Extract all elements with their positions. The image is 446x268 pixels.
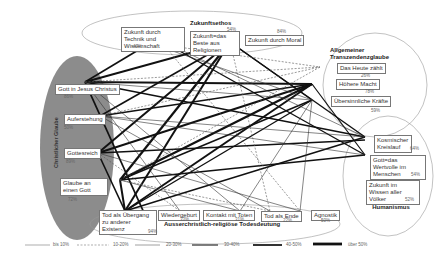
node-einengott: Glaube an einen Gott [60, 178, 108, 196]
pct-einengott: 72% [68, 197, 77, 202]
node-kreislauf: Kosmischer Kreislauf [374, 135, 412, 153]
node-religionen: Zukunft=das Beste aus Religionen [190, 31, 240, 56]
group-title-christian: Christlicher Glaube [53, 117, 60, 168]
pct-religionen: 54% [227, 27, 236, 32]
legend-label-5: 40-50% [286, 242, 302, 247]
pct-kreislauf: 64% [410, 146, 419, 151]
pct-macht: 78% [365, 89, 374, 94]
pct-gottesreich: 89% [66, 159, 75, 164]
pct-jesus: 86% [64, 94, 73, 99]
group-title-todesdeutung: Ausserchristlich-religiöse Todesdeutung [164, 221, 280, 228]
group-title-zukunftsethos: Zukunftsethos [190, 20, 231, 27]
legend-label-6: über 50% [348, 242, 367, 247]
node-gottesreich: Gottesreich [64, 148, 101, 159]
pct-auferstehung: 50% [64, 125, 73, 130]
pct-heute: 26% [361, 73, 370, 78]
legend-label-1: bis 10% [53, 242, 69, 247]
group-title-transzendenz: Allgemeiner Transzendenzglaube [330, 47, 400, 61]
node-kontakt: Kontakt mit Toten [203, 210, 255, 221]
pct-moral: 84% [277, 29, 286, 34]
pct-ende: 22% [283, 218, 292, 223]
legend-label-2: 10-20% [113, 242, 129, 247]
node-technik: Zukunft durch Technik und Wissenschaft [121, 27, 185, 52]
pct-uebergang: 94% [148, 229, 157, 234]
pct-wissen: 52% [405, 197, 414, 202]
pct-wertvolle: 54% [411, 172, 420, 177]
node-ende: Tod als Ende [261, 211, 302, 222]
pct-wiedergeburt: 33% [180, 217, 189, 222]
node-auferstehung: Auferstehung [64, 114, 106, 125]
pct-agnostik: 50% [321, 218, 330, 223]
pct-kraefte: 59% [371, 108, 380, 113]
node-kraefte: Übersinnliche Kräfte [331, 96, 391, 107]
pct-technik: 47% [133, 44, 142, 49]
node-moral: Zukunft durch Moral [245, 35, 304, 46]
legend-label-3: 20-30% [166, 242, 182, 247]
legend-label-4: 30-40% [224, 242, 240, 247]
pct-kontakt: 31% [235, 217, 244, 222]
